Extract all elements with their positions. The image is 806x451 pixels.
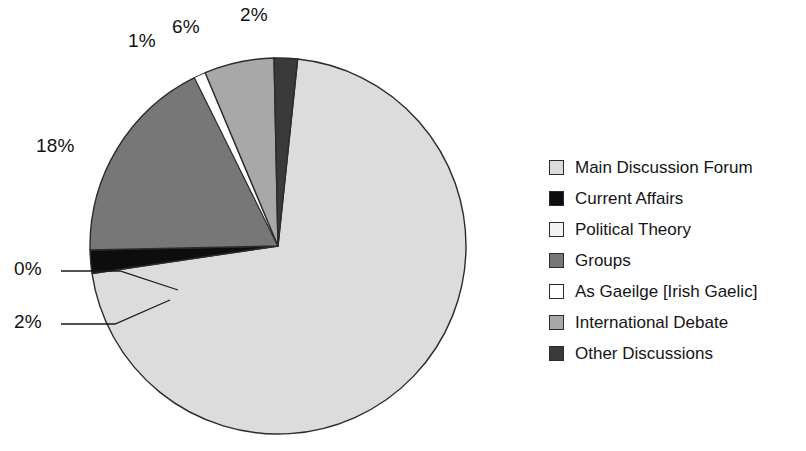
label-current-affairs: 2% — [14, 311, 42, 333]
legend-item-political-theory[interactable]: Political Theory — [549, 214, 801, 245]
label-other-discussions: 2% — [240, 4, 268, 26]
label-political-theory: 0% — [14, 258, 42, 280]
legend-swatch-icon-international-debate — [549, 315, 564, 330]
legend-item-main-discussion-forum[interactable]: Main Discussion Forum — [549, 152, 801, 183]
pie-chart-figure: 2%6%1%18%0%2% Main Discussion ForumCurre… — [0, 0, 806, 451]
legend-swatch-icon-main-discussion-forum — [549, 160, 564, 175]
legend-label-main-discussion-forum: Main Discussion Forum — [575, 159, 753, 176]
legend-label-groups: Groups — [575, 252, 631, 269]
legend-item-as-gaeilge[interactable]: As Gaeilge [Irish Gaelic] — [549, 276, 801, 307]
chart-legend: Main Discussion ForumCurrent AffairsPoli… — [549, 152, 801, 369]
legend-label-as-gaeilge: As Gaeilge [Irish Gaelic] — [575, 283, 757, 300]
legend-label-current-affairs: Current Affairs — [575, 190, 683, 207]
legend-item-current-affairs[interactable]: Current Affairs — [549, 183, 801, 214]
label-international-debate: 6% — [172, 16, 200, 38]
label-as-gaeilge: 1% — [128, 30, 156, 52]
legend-item-other-discussions[interactable]: Other Discussions — [549, 338, 801, 369]
legend-swatch-icon-as-gaeilge — [549, 284, 564, 299]
legend-item-groups[interactable]: Groups — [549, 245, 801, 276]
legend-swatch-icon-current-affairs — [549, 191, 564, 206]
legend-item-international-debate[interactable]: International Debate — [549, 307, 801, 338]
legend-label-other-discussions: Other Discussions — [575, 345, 713, 362]
legend-label-international-debate: International Debate — [575, 314, 728, 331]
legend-label-political-theory: Political Theory — [575, 221, 691, 238]
pie-slice-group — [90, 58, 466, 434]
pie-svg — [0, 0, 520, 451]
legend-swatch-icon-groups — [549, 253, 564, 268]
label-groups: 18% — [36, 135, 75, 157]
pie-plot-area: 2%6%1%18%0%2% — [0, 0, 520, 451]
legend-swatch-icon-political-theory — [549, 222, 564, 237]
legend-swatch-icon-other-discussions — [549, 346, 564, 361]
